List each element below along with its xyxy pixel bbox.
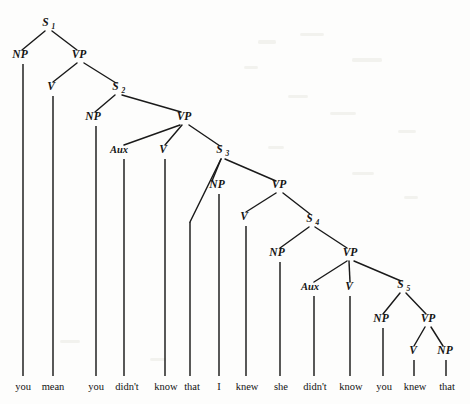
leaf-word-5-that: that (184, 381, 200, 392)
scan-artifact (268, 146, 284, 149)
node-label-text: NP (436, 344, 453, 356)
tree-node-v4: V (345, 280, 354, 292)
node-subscript: 4 (315, 218, 320, 227)
scan-artifact (150, 358, 166, 361)
tree-branch-vp1-to-v1 (53, 63, 77, 82)
leaf-word-12-knew: knew (404, 381, 427, 392)
tree-branch-vp1-to-s2 (84, 63, 116, 83)
node-label-text: V (409, 344, 418, 356)
leaf-word-1-mean: mean (42, 381, 65, 392)
tree-node-np6: NP (436, 344, 453, 356)
tree-node-v3: V (240, 210, 249, 222)
node-label-text: NP (11, 48, 28, 60)
node-label-text: NP (208, 178, 225, 190)
tree-node-aux1: Aux (109, 144, 128, 155)
tree-node-vp1: VP (72, 48, 88, 60)
leaf-word-2-you: you (88, 381, 105, 392)
leaf-word-10-know: know (339, 381, 363, 392)
tree-branch-vp3-to-s4 (283, 193, 310, 214)
scan-artifact (398, 130, 416, 133)
tree-node-v2: V (159, 143, 168, 155)
leaf-word-7-knew: knew (236, 381, 259, 392)
branch-layer (22, 31, 443, 346)
leaf-word-6-I: I (217, 381, 221, 392)
scan-artifact (258, 40, 276, 44)
node-label-text: S (112, 80, 118, 92)
node-label-text: NP (268, 246, 285, 258)
node-label-text: VP (177, 110, 193, 122)
syntax-tree-diagram: S1NPVPVS2NPVPAuxVS3NPVPVS4NPVPAuxVS5NPVP… (0, 0, 470, 404)
tree-node-s4: S4 (306, 212, 319, 227)
tree-node-vp3: VP (272, 178, 288, 190)
node-label-text: NP (372, 312, 389, 324)
leaf-word-3-didnt: didn't (115, 381, 139, 392)
scan-artifact (244, 66, 258, 69)
node-label-text: V (159, 143, 168, 155)
node-label-text: Aux (109, 144, 128, 155)
tree-branch-vp2-to-aux1 (124, 125, 180, 145)
node-label-text: VP (421, 312, 437, 324)
node-subscript: 3 (225, 149, 230, 158)
scan-artifact (352, 172, 374, 175)
tree-branch-s3-to-vp3 (225, 159, 276, 181)
tree-branch-vp4-to-v4 (349, 261, 350, 282)
leaf-word-11-you: you (376, 381, 393, 392)
leaf-word-8-she: she (274, 381, 288, 392)
node-label-text: S (216, 143, 222, 155)
tree-node-s2: S2 (112, 80, 125, 95)
tree-branch-s2-to-vp2 (122, 95, 181, 112)
scan-artifact (288, 95, 308, 98)
tree-node-vp5: VP (421, 312, 437, 324)
tree-branch-s4-to-np4 (280, 227, 309, 248)
node-subscript: 2 (121, 86, 126, 95)
scan-artifact (300, 33, 324, 36)
tree-node-np5: NP (372, 312, 389, 324)
node-label-text: VP (272, 178, 288, 190)
tree-node-np4: NP (268, 246, 285, 258)
tree-branch-vp4-to-s5 (354, 261, 401, 281)
tree-node-np1: NP (11, 48, 28, 60)
tree-branch-vp3-to-v3 (246, 193, 276, 212)
leaf-word-9-didnt: didn't (303, 381, 327, 392)
leaf-word-0-you: you (15, 381, 32, 392)
leaf-word-4-know: know (154, 381, 178, 392)
tree-node-np2: NP (84, 110, 101, 122)
leaf-word-13-that: that (439, 381, 455, 392)
node-label-text: V (240, 210, 249, 222)
leaf-word-layer: youmeanyoudidn'tknowthatIknewshedidn'tkn… (15, 381, 455, 392)
tree-node-vp2: VP (177, 110, 193, 122)
node-label-text: S (306, 212, 312, 224)
syntax-tree-canvas: S1NPVPVS2NPVPAuxVS3NPVPVS4NPVPAuxVS5NPVP… (0, 0, 470, 404)
scan-artifact (60, 340, 80, 343)
node-label-text: Aux (300, 281, 319, 292)
tree-branch-s5-to-np5 (383, 293, 400, 314)
scan-artifact (330, 112, 356, 115)
tree-node-vp4: VP (343, 246, 359, 258)
node-subscript: 1 (52, 22, 56, 31)
tree-node-aux2: Aux (300, 281, 319, 292)
tree-branch-s3-to-comp (190, 159, 221, 222)
tree-node-s3: S3 (216, 143, 229, 158)
scan-artifact (404, 196, 418, 199)
node-label-text: VP (343, 246, 359, 258)
tree-branch-vp4-to-aux2 (314, 261, 347, 282)
tree-node-s1: S1 (42, 16, 55, 31)
node-label-text: V (47, 80, 56, 92)
node-label-text: V (345, 280, 354, 292)
node-label-text: S (397, 278, 403, 290)
node-label-text: NP (84, 110, 101, 122)
tree-node-v5: V (409, 344, 418, 356)
tree-branch-s4-to-vp4 (315, 227, 347, 248)
node-label-layer: S1NPVPVS2NPVPAuxVS3NPVPVS4NPVPAuxVS5NPVP… (11, 16, 453, 356)
node-label-text: S (42, 16, 48, 28)
tree-node-np3: NP (208, 178, 225, 190)
tree-branch-s5-to-vp5 (406, 293, 426, 314)
scan-artifact (352, 58, 382, 62)
tree-node-v1: V (47, 80, 56, 92)
node-subscript: 5 (407, 284, 411, 293)
node-label-text: VP (72, 48, 88, 60)
tree-node-s5: S5 (397, 278, 410, 293)
